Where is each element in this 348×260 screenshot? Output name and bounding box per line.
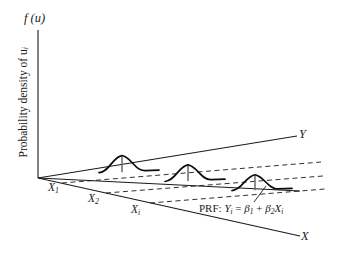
prf-annotation-prefix: PRF: [199, 202, 224, 214]
figure-background [0, 0, 348, 260]
tick-label-xi-base: X [131, 203, 138, 215]
probability-density-label-subscript: i [21, 47, 30, 49]
tick-label-x2-subscript: 2 [95, 197, 99, 206]
x-axis-label: X [301, 230, 309, 243]
tick-label-x1-subscript: 1 [55, 186, 59, 195]
tick-label-xi: Xi [131, 204, 140, 217]
prf-annotation-plus: + [254, 202, 266, 214]
tick-label-x1-base: X [48, 181, 55, 193]
prf-annotation: PRF: Yi = β1 + β2Xi [199, 203, 283, 215]
tick-label-x1: X1 [48, 182, 59, 195]
prf-annotation-x-subscript: i [281, 207, 283, 216]
tick-label-xi-subscript: i [138, 208, 140, 217]
probability-density-label-text: Probability density of u [17, 49, 29, 157]
vertical-axis-label: f (u) [24, 12, 45, 25]
figure-canvas [0, 0, 348, 260]
tick-label-x2: X2 [88, 193, 99, 206]
prf-annotation-equals: = [233, 202, 245, 214]
y-axis-label: Y [299, 128, 306, 141]
probability-density-label: Probability density of ui [18, 37, 31, 167]
tick-label-x2-base: X [88, 192, 95, 204]
prf-figure: f (u) Probability density of ui Y X X1 X… [0, 0, 348, 260]
